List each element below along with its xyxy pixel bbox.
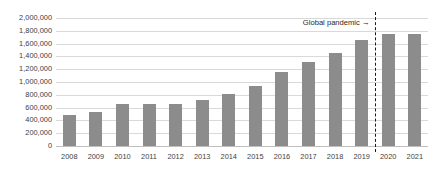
bar-2020 [382, 34, 395, 146]
bar-series [56, 18, 428, 146]
bar-2021 [408, 34, 421, 146]
bar-slot [348, 18, 375, 146]
bar-2014 [222, 94, 235, 146]
bar-slot [83, 18, 110, 146]
bar-2018 [329, 53, 342, 146]
bar-slot [322, 18, 349, 146]
bar-slot [215, 18, 242, 146]
y-axis-tick-label: 1,800,000 [0, 27, 52, 34]
bar-2016 [275, 72, 288, 146]
y-axis-tick-label: 400,000 [0, 116, 52, 123]
x-axis-tick-label: 2012 [162, 150, 189, 164]
bar-2010 [116, 104, 129, 146]
x-axis-tick-label: 2017 [295, 150, 322, 164]
x-axis-tick-label: 2008 [56, 150, 83, 164]
bar-2009 [89, 112, 102, 146]
x-axis-tick-label: 2016 [269, 150, 296, 164]
y-axis-labels: 2,000,0001,800,0001,600,0001,400,0001,20… [0, 18, 52, 146]
bar-slot [162, 18, 189, 146]
bar-slot [56, 18, 83, 146]
y-axis-tick-label: 0 [0, 142, 52, 149]
cut-off-title [0, 0, 437, 11]
bar-2013 [196, 100, 209, 146]
bar-slot [109, 18, 136, 146]
x-axis-tick-label: 2011 [136, 150, 163, 164]
y-axis-tick-label: 800,000 [0, 91, 52, 98]
y-axis-tick-label: 1,200,000 [0, 65, 52, 72]
x-axis-labels: 2008200920102011201220132014201520162017… [56, 150, 428, 164]
x-axis-tick-label: 2019 [348, 150, 375, 164]
y-axis-tick-label: 1,600,000 [0, 40, 52, 47]
bar-2008 [63, 115, 76, 146]
bar-slot [269, 18, 296, 146]
bar-2019 [355, 40, 368, 146]
global-pandemic-marker-line [375, 12, 376, 152]
bar-2012 [169, 104, 182, 146]
bar-slot [295, 18, 322, 146]
x-axis-tick-label: 2010 [109, 150, 136, 164]
global-pandemic-annotation-label: Global pandemic → [303, 18, 370, 28]
y-axis-tick-label: 600,000 [0, 104, 52, 111]
bar-2011 [143, 104, 156, 146]
x-axis-tick-label: 2014 [215, 150, 242, 164]
x-axis-tick-label: 2018 [322, 150, 349, 164]
y-axis-tick-label: 2,000,000 [0, 14, 52, 21]
bar-slot [375, 18, 402, 146]
x-axis-tick-label: 2020 [375, 150, 402, 164]
plot-area [56, 18, 428, 146]
x-axis-tick-label: 2013 [189, 150, 216, 164]
bar-chart: 2,000,0001,800,0001,600,0001,400,0001,20… [0, 0, 437, 174]
bar-slot [136, 18, 163, 146]
bar-slot [402, 18, 429, 146]
y-axis-tick-label: 1,000,000 [0, 78, 52, 85]
bar-2017 [302, 62, 315, 147]
y-axis-tick-label: 200,000 [0, 129, 52, 136]
bar-slot [189, 18, 216, 146]
bar-slot [242, 18, 269, 146]
x-axis-tick-label: 2021 [402, 150, 429, 164]
bar-2015 [249, 86, 262, 146]
x-axis-tick-label: 2009 [83, 150, 110, 164]
y-axis-tick-label: 1,400,000 [0, 52, 52, 59]
gridline [56, 146, 428, 147]
x-axis-tick-label: 2015 [242, 150, 269, 164]
